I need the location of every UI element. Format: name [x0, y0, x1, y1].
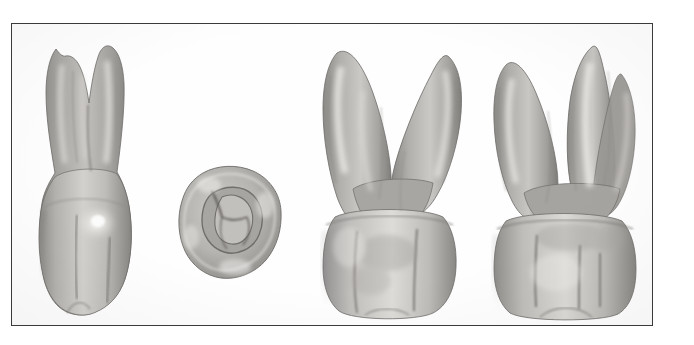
figure-description: maxillary first molar [0, 0, 1, 1]
plate-frame [11, 23, 653, 326]
buccal-tooth-body [39, 46, 131, 315]
buccal-crown-highlight-core [91, 215, 105, 227]
tooth-lingual-view [484, 31, 646, 321]
tooth-occlusal-view [173, 159, 293, 289]
tooth-buccal-view [29, 31, 147, 317]
figure-page: maxillary first molar [0, 0, 694, 345]
plate-inner [12, 24, 652, 325]
tooth-mesial-view [313, 31, 469, 321]
